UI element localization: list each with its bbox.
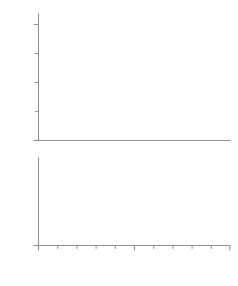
synthesis-panel xyxy=(0,150,238,286)
figure-container xyxy=(0,0,238,286)
cg-concentration-panel xyxy=(0,0,238,150)
